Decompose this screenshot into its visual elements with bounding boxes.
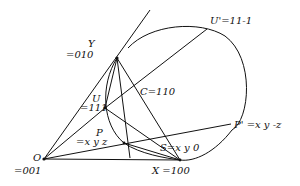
label-Y-value: =010 xyxy=(66,49,94,60)
label-Y-name: Y xyxy=(88,38,96,49)
label-S: S=x y 0 xyxy=(160,142,200,153)
label-X: X =100 xyxy=(151,165,190,176)
line-O-X xyxy=(44,159,180,160)
point-X xyxy=(179,159,182,162)
label-Up: U'=11-1 xyxy=(210,15,252,26)
point-O xyxy=(42,157,45,160)
label-U-value: =111 xyxy=(80,102,107,113)
point-Y xyxy=(115,56,118,59)
label-P-value: =x y z xyxy=(76,136,108,147)
line-O-Pp xyxy=(44,124,231,159)
label-Pp: P' =x y -z xyxy=(233,119,282,130)
geometry-diagram: Y =010 U =111 P =x y z C=110 S=x y 0 O =… xyxy=(0,0,300,186)
label-C: C=110 xyxy=(140,86,176,97)
point-P xyxy=(123,142,126,145)
label-O-value: =001 xyxy=(14,165,41,176)
label-O-name: O xyxy=(33,152,41,163)
